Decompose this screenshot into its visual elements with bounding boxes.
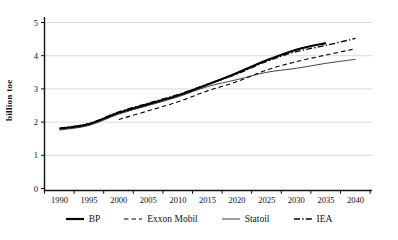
legend-item-bp: BP <box>66 214 101 224</box>
x-tick-label-2015: 2015 <box>199 195 216 205</box>
x-tick-label-2020: 2020 <box>229 195 246 205</box>
x-tick-label-2030: 2030 <box>288 195 305 205</box>
y-axis-label: billion toe <box>4 68 14 132</box>
energy-forecast-chart: 0123451990199520002005201020152020202520… <box>0 0 398 240</box>
x-tick-label-2025: 2025 <box>258 195 275 205</box>
y-tick-label-2: 2 <box>34 117 38 127</box>
legend-label-bp: BP <box>89 214 101 224</box>
y-tick-label-0: 0 <box>34 184 38 194</box>
x-tick-label-2040: 2040 <box>347 195 364 205</box>
y-tick-label-5: 5 <box>34 18 38 28</box>
series-line-exxon-mobil <box>119 49 356 120</box>
bp-line-sample <box>66 216 84 222</box>
x-tick-label-2005: 2005 <box>140 195 157 205</box>
iea-line-sample <box>294 216 312 222</box>
legend: BP Exxon Mobil Statoil IEA <box>0 214 398 224</box>
legend-label-iea: IEA <box>317 214 333 224</box>
legend-item-exxon-mobil: Exxon Mobil <box>124 214 197 224</box>
x-tick-label-2035: 2035 <box>317 195 334 205</box>
exxon-mobil-line-sample <box>124 216 142 222</box>
series-line-iea <box>60 38 356 128</box>
y-tick-label-1: 1 <box>34 150 38 160</box>
plot-area: 0123451990199520002005201020152020202520… <box>0 0 398 240</box>
x-tick-label-2010: 2010 <box>169 195 186 205</box>
legend-label-statoil: Statoil <box>245 214 270 224</box>
y-tick-label-3: 3 <box>34 84 38 94</box>
x-tick-label-1995: 1995 <box>81 195 98 205</box>
legend-label-exxon-mobil: Exxon Mobil <box>147 214 197 224</box>
legend-item-iea: IEA <box>294 214 333 224</box>
x-tick-label-1990: 1990 <box>51 195 68 205</box>
legend-item-statoil: Statoil <box>222 214 270 224</box>
statoil-line-sample <box>222 216 240 222</box>
x-tick-label-2000: 2000 <box>110 195 127 205</box>
y-tick-label-4: 4 <box>34 51 39 61</box>
